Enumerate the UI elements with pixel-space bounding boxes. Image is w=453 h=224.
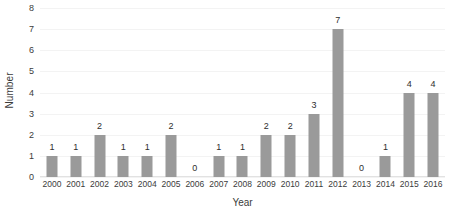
bar-value-label: 4 <box>407 80 412 89</box>
x-axis-tick-label: 2001 <box>66 180 85 189</box>
bar-value-label: 1 <box>383 143 388 152</box>
bar-group[interactable]: 0 <box>183 8 207 177</box>
bar[interactable] <box>118 156 129 177</box>
bar-value-label: 1 <box>240 143 245 152</box>
bar[interactable] <box>261 135 272 177</box>
bar-group[interactable]: 1 <box>374 8 398 177</box>
x-axis-title: Year <box>40 198 445 208</box>
y-axis-tick-label: 2 <box>29 130 34 139</box>
bar[interactable] <box>308 114 319 177</box>
x-axis-tick-label: 2004 <box>138 180 157 189</box>
gridline <box>40 177 445 178</box>
x-axis-title-text: Year <box>232 197 252 208</box>
bar-group[interactable]: 1 <box>231 8 255 177</box>
x-axis-tick-label: 2000 <box>42 180 61 189</box>
bars-layer: 11211201122370144 <box>40 8 445 177</box>
x-axis-tick-label: 2005 <box>162 180 181 189</box>
bar-group[interactable]: 1 <box>40 8 64 177</box>
bar-chart: Number 012345678 11211201122370144 20002… <box>0 0 453 224</box>
bar[interactable] <box>237 156 248 177</box>
bar[interactable] <box>142 156 153 177</box>
x-axis-tick-label: 2015 <box>400 180 419 189</box>
bar[interactable] <box>332 29 343 177</box>
x-axis-tick-label: 2007 <box>209 180 228 189</box>
bar[interactable] <box>166 135 177 177</box>
x-axis-tick-label: 2014 <box>376 180 395 189</box>
bar-value-label: 1 <box>73 143 78 152</box>
bar-group[interactable]: 2 <box>278 8 302 177</box>
y-axis-tick-label: 3 <box>29 109 34 118</box>
bar[interactable] <box>380 156 391 177</box>
bar-value-label: 2 <box>169 122 174 131</box>
x-axis-tick-label: 2010 <box>281 180 300 189</box>
bar-value-label: 2 <box>264 122 269 131</box>
x-axis-tick-label: 2012 <box>328 180 347 189</box>
bar[interactable] <box>213 156 224 177</box>
bar-group[interactable]: 1 <box>111 8 135 177</box>
x-axis-tick-label: 2009 <box>257 180 276 189</box>
y-axis-tick-label: 4 <box>29 88 34 97</box>
x-axis-tick-label: 2016 <box>424 180 443 189</box>
x-axis-tick-label: 2003 <box>114 180 133 189</box>
bar[interactable] <box>404 93 415 178</box>
bar-group[interactable]: 2 <box>254 8 278 177</box>
bar[interactable] <box>70 156 81 177</box>
x-axis-tick-labels: 2000200120022003200420052006200720082009… <box>40 180 445 196</box>
x-axis-tick-label: 2002 <box>90 180 109 189</box>
bar-group[interactable]: 4 <box>397 8 421 177</box>
y-axis-tick-label: 7 <box>29 25 34 34</box>
bar-group[interactable]: 0 <box>350 8 374 177</box>
x-axis-tick-label: 2013 <box>352 180 371 189</box>
bar-group[interactable]: 4 <box>421 8 445 177</box>
y-axis-tick-label: 1 <box>29 151 34 160</box>
y-axis-tick-label: 0 <box>29 173 34 182</box>
bar-group[interactable]: 1 <box>64 8 88 177</box>
bar-value-label: 7 <box>335 16 340 25</box>
bar-value-label: 1 <box>145 143 150 152</box>
bar-value-label: 0 <box>192 164 197 173</box>
bar-group[interactable]: 3 <box>302 8 326 177</box>
y-axis-title-text: Number <box>4 72 15 108</box>
x-axis-tick-label: 2008 <box>233 180 252 189</box>
bar-group[interactable]: 1 <box>207 8 231 177</box>
plot-area: 11211201122370144 <box>40 8 445 177</box>
bar-value-label: 3 <box>311 101 316 110</box>
x-axis-tick-label: 2006 <box>185 180 204 189</box>
y-axis-tick-label: 8 <box>29 4 34 13</box>
bar-group[interactable]: 2 <box>159 8 183 177</box>
bar[interactable] <box>94 135 105 177</box>
bar-value-label: 0 <box>359 164 364 173</box>
y-axis-tick-labels: 012345678 <box>18 0 38 180</box>
y-axis-tick-label: 5 <box>29 67 34 76</box>
y-axis-title: Number <box>0 0 18 180</box>
bar-value-label: 1 <box>49 143 54 152</box>
y-axis-tick-label: 6 <box>29 46 34 55</box>
bar-group[interactable]: 7 <box>326 8 350 177</box>
bar-group[interactable]: 2 <box>88 8 112 177</box>
bar[interactable] <box>428 93 439 178</box>
bar-value-label: 1 <box>121 143 126 152</box>
bar-value-label: 2 <box>288 122 293 131</box>
bar[interactable] <box>285 135 296 177</box>
bar-value-label: 1 <box>216 143 221 152</box>
x-axis-tick-label: 2011 <box>305 180 323 189</box>
bar-group[interactable]: 1 <box>135 8 159 177</box>
bar[interactable] <box>46 156 57 177</box>
bar-value-label: 4 <box>431 80 436 89</box>
bar-value-label: 2 <box>97 122 102 131</box>
